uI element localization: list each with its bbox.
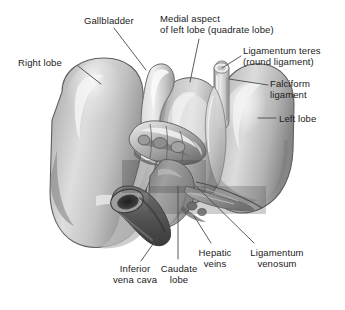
label-hepatic-veins: Hepatic veins (191, 247, 239, 269)
overlay-rect-lower (148, 186, 266, 214)
label-right-lobe: Right lobe (18, 57, 62, 68)
label-medial-aspect-left-lobe: Medial aspect of left lobe (quadrate lob… (160, 13, 274, 35)
label-gallbladder: Gallbladder (84, 15, 134, 26)
liver-anatomy-figure: Right lobe Gallbladder Medial aspect of … (0, 0, 345, 310)
label-ligamentum-venosum: Ligamentum venosum (241, 247, 313, 269)
label-left-lobe: Left lobe (279, 113, 316, 124)
label-ligamentum-teres: Ligamentum teres (round ligament) (243, 45, 321, 67)
leader-medial-aspect-left-lobe (190, 39, 199, 82)
leader-hepatic-veins (194, 216, 211, 243)
label-falciform-ligament: Falciform ligament (270, 78, 310, 100)
